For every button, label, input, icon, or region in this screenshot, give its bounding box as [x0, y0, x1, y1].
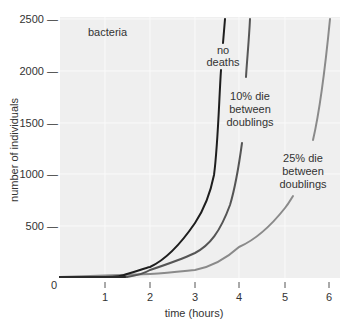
y-tick-2000: 2000 — — [19, 65, 58, 77]
label-25pct-line3: doublings — [279, 178, 327, 190]
label-10pct-line1: 10% die — [230, 90, 270, 102]
label-25pct-line2: between — [282, 165, 324, 177]
y-tick-0: 0 — [51, 279, 57, 291]
y-axis-title: number of individuals — [8, 98, 20, 202]
label-no-deaths-line2: deaths — [206, 56, 240, 68]
annotation-bacteria: bacteria — [88, 26, 128, 38]
y-tick-1000: 1000 — — [19, 168, 58, 180]
y-tick-1500: 1500 — — [19, 117, 58, 129]
label-25pct-line1: 25% die — [283, 152, 323, 164]
y-tick-2500: 2500 — — [19, 13, 58, 25]
label-10pct-line2: between — [229, 103, 271, 115]
x-axis — [105, 282, 329, 288]
chart-svg: 1 2 3 4 5 6 time (hours) 0 500 — 1000 — … — [0, 0, 342, 324]
x-tick-6: 6 — [326, 291, 332, 303]
x-tick-1: 1 — [102, 291, 108, 303]
y-tick-500: 500 — — [26, 220, 58, 232]
x-tick-labels: 1 2 3 4 5 6 — [102, 291, 332, 303]
x-tick-3: 3 — [192, 291, 198, 303]
label-10pct-line3: doublings — [226, 116, 274, 128]
plot-area — [60, 17, 340, 278]
x-tick-4: 4 — [236, 291, 242, 303]
x-axis-title: time (hours) — [165, 307, 224, 319]
x-tick-5: 5 — [282, 291, 288, 303]
label-25pct: 25% die between doublings — [279, 152, 327, 190]
label-10pct: 10% die between doublings — [226, 90, 274, 128]
y-tick-labels: 0 500 — 1000 — 1500 — 2000 — 2500 — — [19, 13, 58, 291]
label-no-deaths-line1: no — [217, 44, 229, 56]
x-tick-2: 2 — [147, 291, 153, 303]
